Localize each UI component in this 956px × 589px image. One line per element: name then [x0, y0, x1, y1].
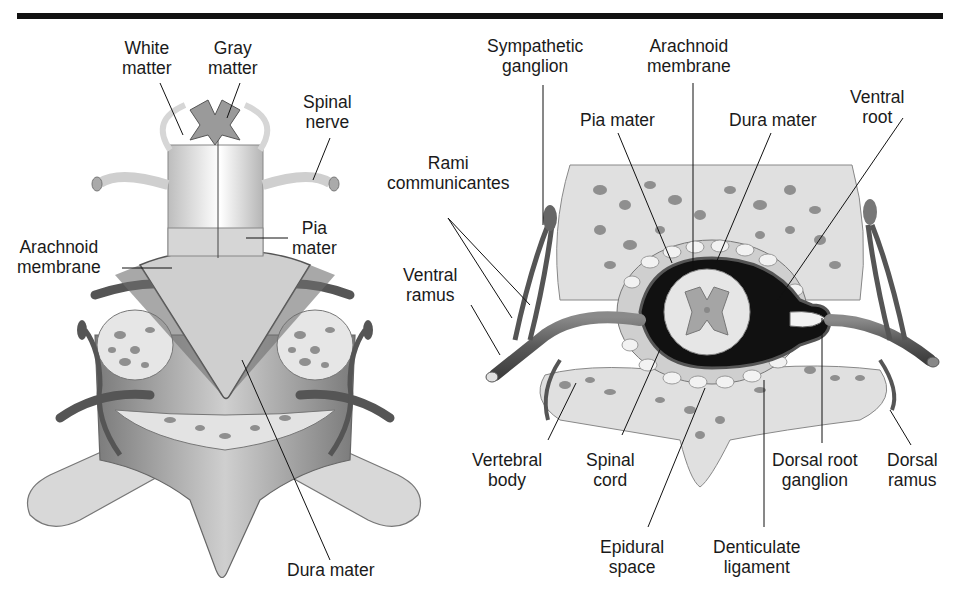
anatomy-illustration: [0, 0, 956, 589]
label-spinal-cord: Spinal cord: [586, 450, 635, 490]
label-pia-mater-left: Pia mater: [292, 218, 337, 258]
label-ventral-root: Ventral root: [850, 87, 904, 127]
label-vertebral-body: Vertebral body: [472, 450, 542, 490]
label-dorsal-ramus: Dorsal ramus: [887, 450, 938, 490]
label-dorsal-root-ganglion: Dorsal root ganglion: [772, 450, 858, 490]
label-pia-mater-right: Pia mater: [580, 110, 655, 130]
label-white-matter: White matter: [122, 38, 172, 78]
label-sympathetic-ganglion: Sympathetic ganglion: [487, 36, 583, 76]
label-dura-mater-right: Dura mater: [729, 110, 817, 130]
label-arachnoid-membrane-left: Arachnoid membrane: [17, 237, 101, 277]
left-panel: [28, 83, 421, 578]
label-spinal-nerve: Spinal nerve: [303, 92, 352, 132]
label-denticulate-ligament: Denticulate ligament: [713, 537, 801, 577]
label-gray-matter: Gray matter: [208, 38, 258, 78]
label-epidural-space: Epidural space: [600, 537, 664, 577]
label-rami-communicantes: Rami communicantes: [387, 153, 510, 193]
label-ventral-ramus: Ventral ramus: [403, 265, 457, 305]
label-dura-mater-left: Dura mater: [287, 560, 375, 580]
label-arachnoid-membrane-right: Arachnoid membrane: [647, 36, 731, 76]
